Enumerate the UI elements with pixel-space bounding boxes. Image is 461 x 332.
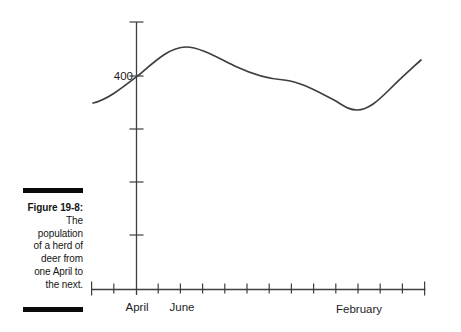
x-tick-label-february: February (336, 303, 382, 315)
x-tick-label-april: April (125, 301, 148, 313)
y-tick-label-400: 400 (114, 70, 133, 82)
figure-page: Figure 19-8: The population of a herd of… (0, 0, 461, 332)
population-curve (93, 47, 421, 110)
x-tick-label-june: June (170, 301, 195, 313)
plot-svg: 400AprilJuneFebruary (0, 0, 461, 332)
